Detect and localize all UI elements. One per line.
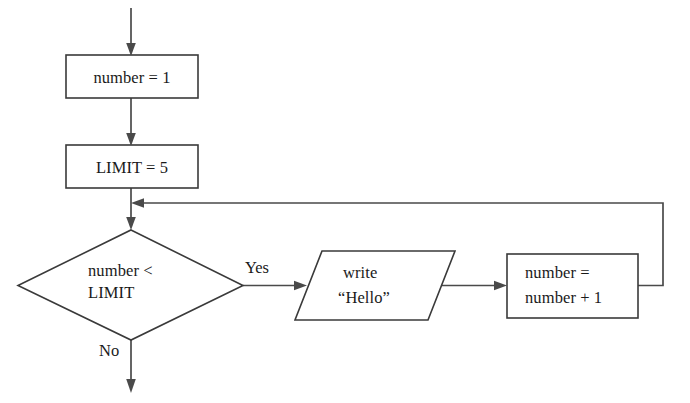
node-increment-label-line1: number = [525, 261, 645, 285]
edge-init-number-to-init-limit-arrowhead [126, 133, 136, 146]
node-init-limit-label: LIMIT = 5 [66, 156, 198, 180]
node-condition-label-line1: number < [88, 259, 218, 283]
edge-loop-back-arrowhead [131, 198, 144, 208]
edge-condition-no-exit-arrowhead [126, 379, 136, 393]
edge-entry [126, 8, 136, 56]
edge-init-number-to-init-limit [126, 98, 136, 146]
edge-label-yes: Yes [245, 258, 269, 278]
node-increment-label-line2: number + 1 [525, 286, 645, 310]
node-output-label-line1: write [343, 261, 453, 285]
edge-init-limit-to-condition-arrowhead [126, 217, 136, 230]
edge-output-to-increment-arrowhead [494, 281, 507, 291]
edge-entry-arrowhead [126, 43, 136, 56]
node-condition-label-line2: LIMIT [88, 281, 218, 305]
edge-init-limit-to-condition [126, 188, 136, 230]
edge-condition-yes-to-output-arrowhead [294, 281, 307, 291]
flowchart-canvas: number = 1 LIMIT = 5 number < LIMIT writ… [0, 0, 690, 403]
edge-condition-yes-to-output [243, 281, 307, 291]
node-init-number-label: number = 1 [66, 66, 198, 90]
edge-label-no: No [99, 341, 119, 361]
node-output-label-line2: “Hello” [338, 286, 448, 310]
edge-condition-no-exit [126, 340, 136, 393]
